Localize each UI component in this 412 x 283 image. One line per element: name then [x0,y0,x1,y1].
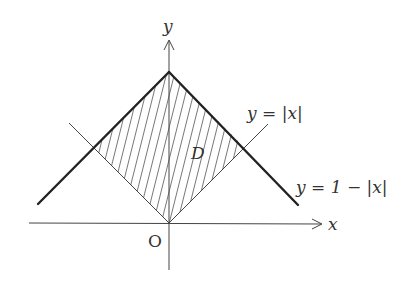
region-diagram: y x O D y = |x| y = 1 − |x| [0,0,412,283]
region-label: D [190,143,205,163]
curve-abs-label: y = |x| [246,103,303,123]
origin-label: O [148,231,162,251]
y-axis-label: y [162,16,173,36]
region-hatching [40,60,282,260]
curve-one-minus-abs-label: y = 1 − |x| [295,177,388,197]
curve-one-minus-abs-x [38,72,298,205]
x-axis [29,219,322,229]
x-axis-label: x [328,214,338,234]
diagram-canvas: y x O D y = |x| y = 1 − |x| [0,0,412,283]
